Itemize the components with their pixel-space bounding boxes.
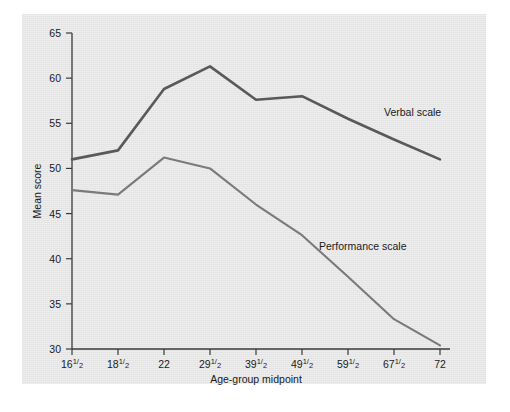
y-tick-label-55: 55 [49, 117, 61, 129]
y-tick-label-40: 40 [49, 253, 61, 265]
y-tick-label-65: 65 [49, 27, 61, 39]
y-tick-label-35: 35 [49, 298, 61, 310]
x-tick-label-4: 391/2 [245, 357, 267, 370]
y-tick-label-45: 45 [49, 208, 61, 220]
y-tick-label-30: 30 [49, 343, 61, 355]
x-tick-label-0: 161/2 [61, 357, 83, 370]
chart-plot-area: 3035404550556065 161/2181/222291/2391/24… [0, 0, 510, 412]
series-label-verbal-scale: Verbal scale [384, 106, 441, 118]
y-axis-tick-labels: 3035404550556065 [49, 27, 61, 355]
x-tick-label-6: 591/2 [337, 357, 359, 370]
x-tick-label-5: 491/2 [291, 357, 313, 370]
x-tick-label-3: 291/2 [199, 357, 221, 370]
y-axis-ticks [66, 33, 72, 349]
x-axis-ticks [72, 349, 440, 355]
series-label-performance-scale: Performance scale [319, 240, 407, 252]
x-axis-title: Age-group midpoint [210, 373, 302, 385]
line-chart-svg: 3035404550556065 161/2181/222291/2391/24… [0, 0, 510, 412]
y-axis-title: Mean score [31, 163, 43, 218]
y-tick-label-50: 50 [49, 162, 61, 174]
x-tick-label-1: 181/2 [107, 357, 129, 370]
x-tick-label-8: 72 [434, 358, 446, 370]
x-axis-tick-labels: 161/2181/222291/2391/2491/2591/2671/272 [61, 357, 446, 370]
y-tick-label-60: 60 [49, 72, 61, 84]
x-tick-label-7: 671/2 [383, 357, 405, 370]
x-tick-label-2: 22 [158, 358, 170, 370]
chart-screenshot: 3035404550556065 161/2181/222291/2391/24… [0, 0, 510, 412]
